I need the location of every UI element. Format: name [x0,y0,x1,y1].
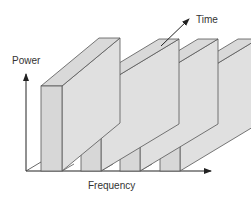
power-label: Power [12,55,41,66]
time-axis-baseline [26,162,41,171]
time-label: Time [196,14,218,25]
time-frequency-power-diagram: Power Time Frequency [0,0,251,201]
frequency-label: Frequency [88,180,135,191]
